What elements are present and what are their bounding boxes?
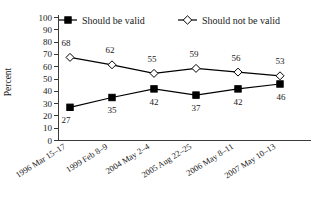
point-label: 56 bbox=[232, 53, 242, 63]
y-tick-label: 20 bbox=[43, 111, 53, 121]
point-label: 42 bbox=[234, 97, 243, 107]
y-tick-label: 10 bbox=[43, 123, 53, 133]
point-label: 27 bbox=[62, 115, 72, 125]
point-label: 59 bbox=[190, 49, 200, 59]
series-markers-should-not-be-valid bbox=[66, 53, 284, 79]
x-axis-labels: 1996 Mar 15–17 1999 Feb 8–9 2004 May 2–4… bbox=[14, 141, 277, 181]
legend-item-should-be-valid[interactable]: Should be valid bbox=[59, 15, 145, 26]
y-tick-label: 60 bbox=[43, 62, 53, 72]
point-label: 55 bbox=[148, 54, 158, 64]
point-label: 68 bbox=[62, 38, 72, 48]
open-diamond-icon bbox=[183, 16, 192, 24]
point-label: 35 bbox=[108, 105, 118, 115]
x-tick-label: 1996 Mar 15–17 bbox=[14, 141, 67, 180]
legend-label: Should not be valid bbox=[202, 15, 280, 26]
y-tick-label: 70 bbox=[43, 49, 53, 59]
series-line-should-be-valid bbox=[70, 84, 280, 107]
point-label: 53 bbox=[276, 56, 286, 66]
series-line-should-not-be-valid bbox=[70, 57, 280, 75]
series-labels-should-be-valid: 27 35 42 37 42 46 bbox=[62, 92, 287, 125]
legend-label: Should be valid bbox=[82, 15, 145, 26]
line-chart: Percent 100 90 80 70 60 50 40 30 20 10 0 bbox=[0, 0, 311, 211]
y-axis-title: Percent bbox=[3, 67, 13, 96]
y-tick-label: 40 bbox=[43, 86, 53, 96]
y-tick-marks bbox=[54, 18, 58, 141]
series-markers-should-be-valid bbox=[67, 81, 283, 111]
x-tick-label: 1999 Feb 8–9 bbox=[64, 141, 109, 174]
point-label: 42 bbox=[150, 97, 159, 107]
y-tick-label: 0 bbox=[48, 136, 53, 146]
filled-square-icon bbox=[65, 17, 71, 23]
y-tick-label: 100 bbox=[39, 13, 53, 23]
legend-item-should-not-be-valid[interactable]: Should not be valid bbox=[178, 15, 280, 26]
chart-legend: Should be valid Should not be valid bbox=[59, 15, 280, 26]
point-label: 62 bbox=[106, 45, 115, 55]
chart-canvas: Percent 100 90 80 70 60 50 40 30 20 10 0 bbox=[0, 0, 311, 211]
point-label: 37 bbox=[192, 103, 202, 113]
point-label: 46 bbox=[277, 92, 287, 102]
y-axis-ticks: 100 90 80 70 60 50 40 30 20 10 0 bbox=[39, 13, 53, 146]
y-tick-label: 50 bbox=[43, 74, 53, 84]
y-tick-label: 30 bbox=[43, 99, 53, 109]
y-tick-label: 80 bbox=[43, 37, 53, 47]
y-tick-label: 90 bbox=[43, 25, 53, 35]
